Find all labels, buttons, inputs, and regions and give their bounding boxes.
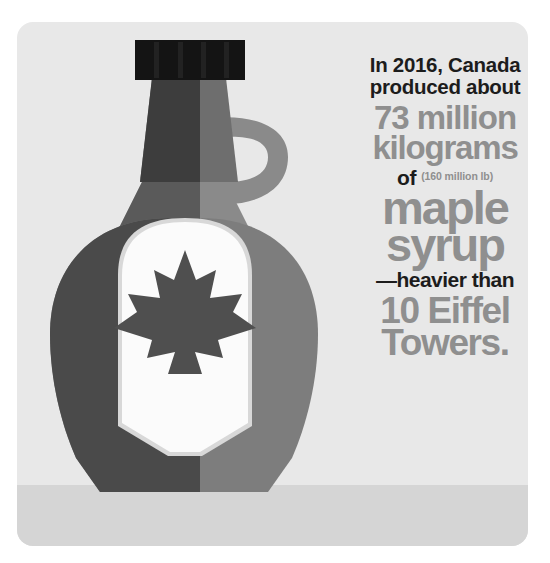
infographic-canvas: In 2016, Canada produced about 73 millio… — [0, 0, 550, 563]
amount-unit: kilograms — [362, 131, 528, 164]
intro-line-1: In 2016, Canada — [362, 54, 528, 76]
comparison-intro: —heavier than — [362, 269, 528, 290]
infographic-card: In 2016, Canada produced about 73 millio… — [17, 22, 528, 546]
bottle-neck — [140, 78, 238, 182]
comparison-line-2: Towers. — [362, 324, 528, 361]
maple-syrup-bottle-illustration — [30, 22, 340, 492]
intro-line-2: produced about — [362, 76, 528, 98]
ground-band — [17, 485, 528, 546]
conversion-note: (160 million lb) — [421, 171, 493, 182]
product-line-2: syrup — [362, 221, 528, 268]
bottle-label — [114, 218, 256, 456]
bottle-cap — [135, 40, 245, 80]
headline-text-block: In 2016, Canada produced about 73 millio… — [362, 54, 528, 361]
